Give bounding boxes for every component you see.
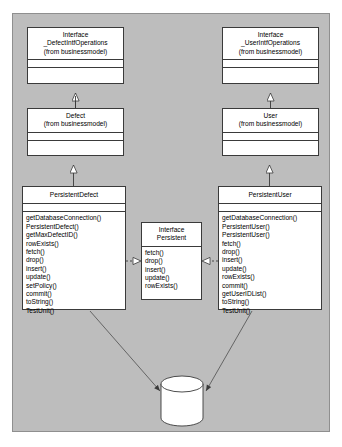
operation-label: getDatabaseConnection() [26,214,125,222]
operation-label: update() [222,265,321,273]
operation-label: drop() [26,256,125,264]
operation-label: commit() [222,282,321,290]
operation-label: toString() [222,298,321,306]
operation-label: commit() [26,290,125,298]
class-node-defect[interactable]: Defect (from businessmodel) [27,108,124,156]
class-name-label: _DefectIntfOperations [30,39,121,47]
operation-label: fetch() [222,240,321,248]
operation-label: toString() [26,298,125,306]
attributes-compartment [28,133,123,141]
attributes-compartment [223,60,318,68]
operations-compartment [28,68,123,75]
operation-label: TestUnit() [26,307,125,315]
database-cylinder-node[interactable] [160,375,206,427]
class-node-persistent-defect[interactable]: PersistentDefect getDatabaseConnection()… [22,186,126,310]
operations-compartment: getDatabaseConnection()PersistentDefect(… [23,212,125,317]
attributes-compartment [28,60,123,68]
operations-compartment [223,141,318,148]
class-node-persistent-user[interactable]: PersistentUser getDatabaseConnection()Pe… [218,186,322,310]
operation-label: PersistentUser() [222,231,321,239]
class-node-user-interface[interactable]: Interface _UserIntfOperations (from busi… [222,27,319,84]
class-node-user[interactable]: User (from businessmodel) [222,108,319,156]
class-title: Interface _UserIntfOperations (from busi… [223,28,318,60]
operation-label: update() [26,273,125,281]
class-title: User (from businessmodel) [223,109,318,133]
class-name-label: _UserIntfOperations [225,39,316,47]
operation-label: PersistentUser() [222,223,321,231]
stereotype-label: Interface [30,31,121,39]
operation-label: setPolicy() [26,282,125,290]
operations-compartment: fetch()drop()insert()update()rowExists() [142,247,201,293]
class-title: PersistentDefect [23,187,125,204]
package-label: (from businessmodel) [225,120,316,128]
attributes-compartment [223,133,318,141]
operation-label: PersistentDefect() [26,223,125,231]
operation-label: update() [145,274,201,282]
class-node-persistent-interface[interactable]: Interface Persistent fetch()drop()insert… [141,222,202,300]
operation-label: getMaxDefectID() [26,231,125,239]
class-name-label: Defect [30,112,121,120]
operation-label: rowExists() [222,273,321,281]
stereotype-label: Interface [225,31,316,39]
operation-label: fetch() [145,249,201,257]
operation-label: drop() [145,257,201,265]
class-title: Interface _DefectIntfOperations (from bu… [28,28,123,60]
operation-label: getDatabaseConnection() [222,214,321,222]
operations-compartment: getDatabaseConnection()PersistentUser()P… [219,212,321,317]
attributes-compartment [219,204,321,212]
operation-label: insert() [145,266,201,274]
operation-label: insert() [26,265,125,273]
class-title: Interface Persistent [142,223,201,247]
package-label: (from businessmodel) [30,120,121,128]
operation-label: insert() [222,256,321,264]
class-node-defect-interface[interactable]: Interface _DefectIntfOperations (from bu… [27,27,124,84]
operation-label: rowExists() [145,282,201,290]
operations-compartment [28,141,123,148]
class-name-label: Persistent [144,234,199,242]
database-icon [160,375,206,427]
class-name-label: PersistentDefect [25,191,123,199]
class-title: PersistentUser [219,187,321,204]
uml-class-diagram: database --> database --> Interface _Def… [0,0,342,447]
class-name-label: PersistentUser [221,191,319,199]
class-title: Defect (from businessmodel) [28,109,123,133]
operation-label: fetch() [26,248,125,256]
class-name-label: User [225,112,316,120]
operation-label: TestUnit() [222,307,321,315]
stereotype-label: Interface [144,226,199,234]
operations-compartment [223,68,318,75]
operation-label: rowExists() [26,240,125,248]
package-label: (from businessmodel) [225,48,316,56]
attributes-compartment [23,204,125,212]
operation-label: getUserIDList() [222,290,321,298]
package-label: (from businessmodel) [30,48,121,56]
operation-label: drop() [222,248,321,256]
